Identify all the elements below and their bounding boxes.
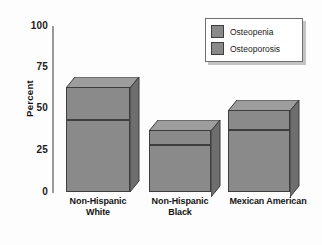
x-label-3-line1: Mexican American — [219, 196, 317, 207]
y-tick-label-25: 25 — [22, 145, 48, 155]
y-tick-label-0: 0 — [22, 187, 48, 197]
legend-item-osteoporosis: Osteoporosis — [211, 40, 298, 57]
bar2-segment-osteoporosis — [149, 145, 211, 192]
bar-mexican-american — [228, 110, 290, 192]
y-axis-title: Percent — [24, 64, 35, 134]
y-tick-label-100: 100 — [22, 21, 48, 31]
bar-non-hispanic-black — [149, 130, 211, 192]
chart-figure: 100 75 50 25 0 Percent — [0, 0, 322, 245]
bar3-side-face — [290, 100, 301, 198]
y-axis-line — [52, 26, 54, 193]
legend-label-osteopenia: Osteopenia — [230, 27, 273, 37]
x-label-1-line1: Non-Hispanic — [57, 196, 139, 207]
legend-label-osteoporosis: Osteoporosis — [230, 44, 280, 54]
bar2-segment-osteopenia — [149, 130, 211, 145]
bar1-side-face — [130, 77, 141, 193]
x-label-2-line1: Non-Hispanic — [139, 196, 221, 207]
legend-swatch-osteoporosis — [211, 42, 224, 55]
x-label-1-line2: White — [57, 207, 139, 218]
legend-item-osteopenia: Osteopenia — [211, 23, 298, 40]
x-label-mexican-american: Mexican American — [219, 196, 317, 207]
chart-legend: Osteopenia Osteoporosis — [205, 18, 303, 62]
bar3-segment-osteoporosis — [228, 130, 290, 192]
x-label-2-line2: Black — [139, 207, 221, 218]
bar-non-hispanic-white — [66, 87, 130, 192]
bar1-segment-osteopenia — [66, 87, 130, 120]
x-label-non-hispanic-black: Non-Hispanic Black — [139, 196, 221, 218]
legend-swatch-osteopenia — [211, 25, 224, 38]
x-label-non-hispanic-white: Non-Hispanic White — [57, 196, 139, 218]
bar1-segment-osteoporosis — [66, 120, 130, 192]
bar3-segment-osteopenia — [228, 110, 290, 130]
plot-area: 100 75 50 25 0 Percent — [0, 0, 322, 245]
bar2-side-face — [211, 120, 222, 198]
